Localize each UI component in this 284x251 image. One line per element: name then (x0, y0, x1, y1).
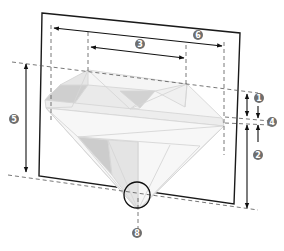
svg-text:1: 1 (256, 94, 262, 103)
svg-text:3: 3 (137, 40, 143, 49)
callout-badge-4: 4 (267, 117, 277, 127)
diamond-proportions-diagram: 6 3 5 1 4 2 8 (0, 0, 284, 251)
callout-badge-2: 2 (253, 150, 263, 160)
callout-badge-5: 5 (9, 114, 19, 124)
svg-text:2: 2 (255, 151, 261, 160)
svg-text:4: 4 (269, 118, 275, 127)
svg-text:5: 5 (11, 115, 17, 124)
callout-badge-8: 8 (132, 228, 142, 238)
diamond-gem (45, 70, 224, 210)
callout-badge-6: 6 (193, 30, 203, 40)
svg-text:8: 8 (134, 229, 140, 238)
callout-badge-1: 1 (254, 93, 264, 103)
callout-badge-3: 3 (135, 39, 145, 49)
svg-text:6: 6 (195, 31, 201, 40)
